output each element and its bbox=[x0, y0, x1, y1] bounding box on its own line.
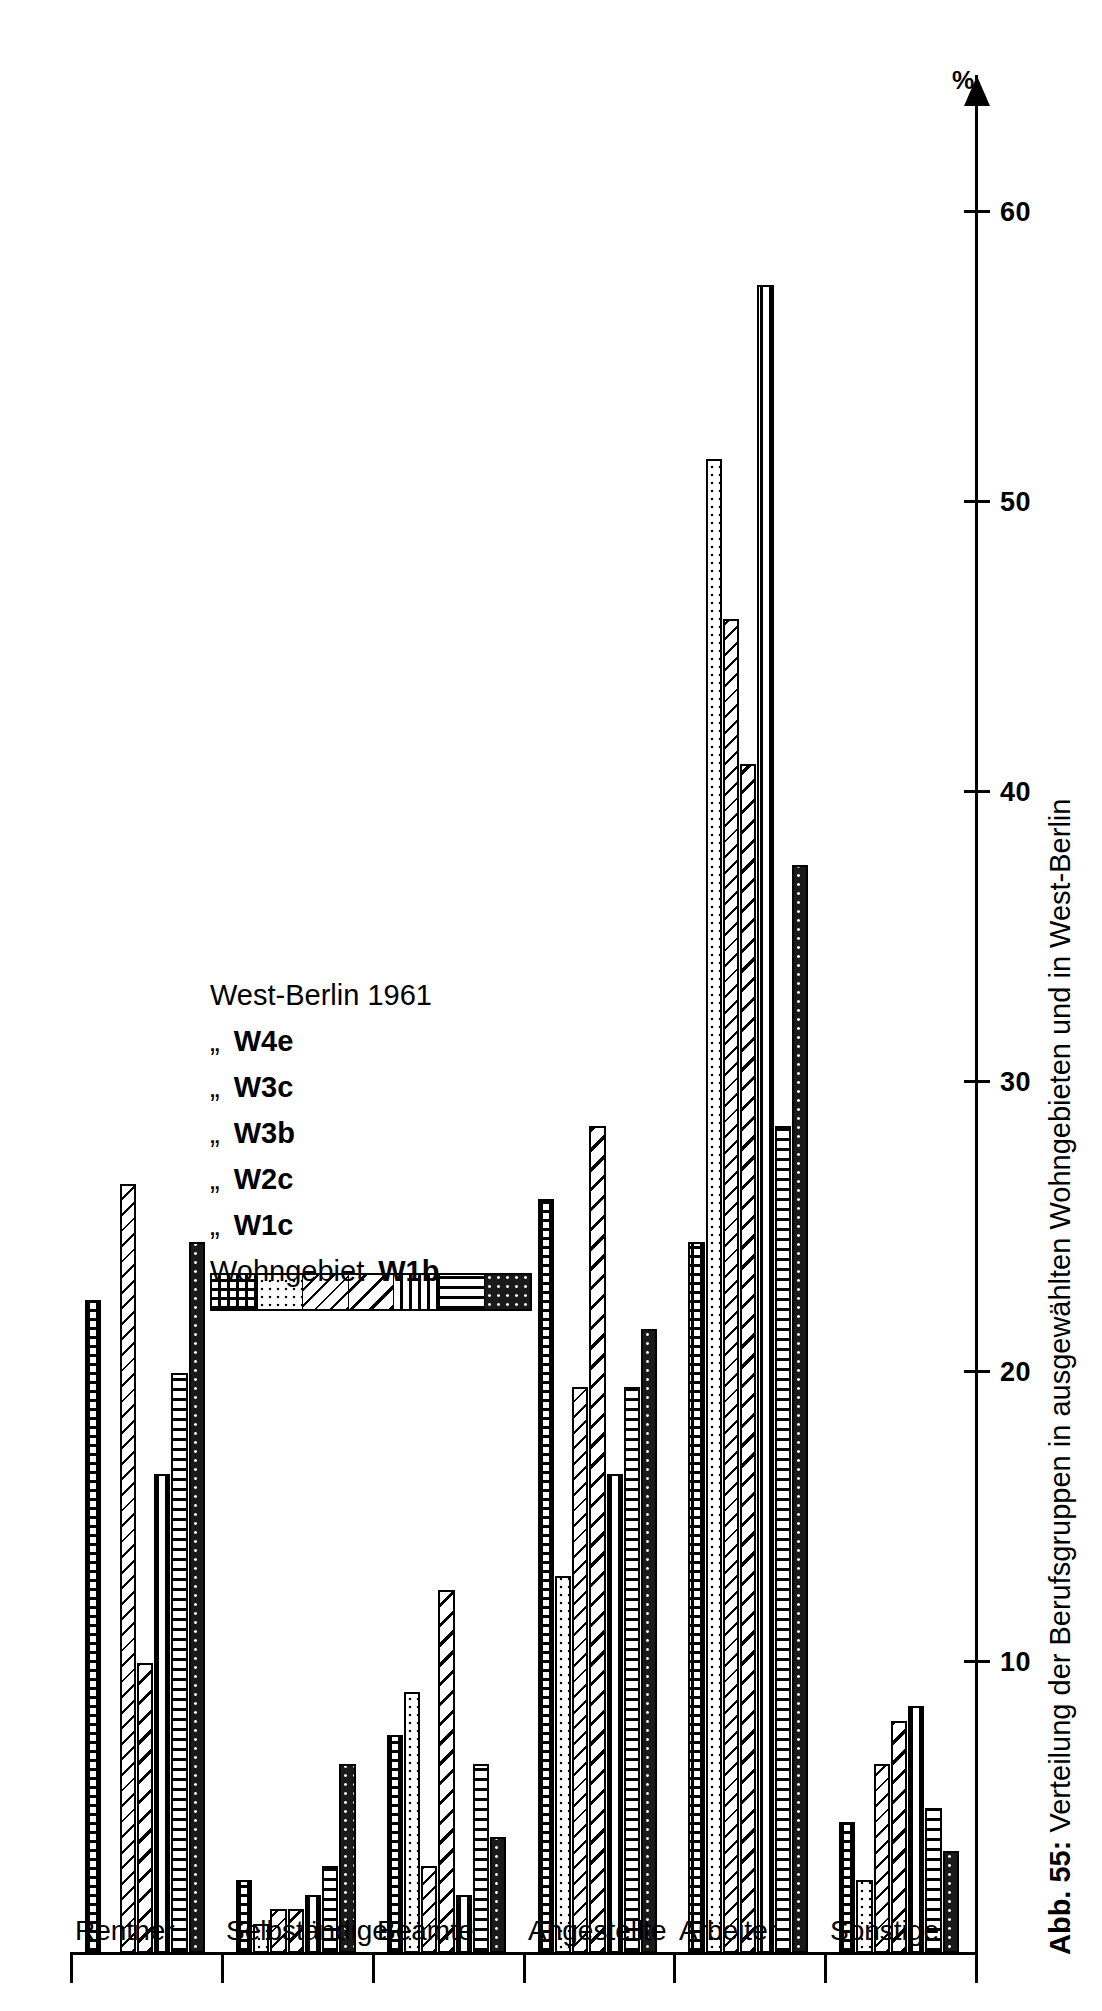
bar-angestellte-1 bbox=[538, 1199, 554, 1953]
bar-rentner-4 bbox=[137, 1663, 153, 1953]
legend-series-code: W3c bbox=[234, 1071, 294, 1104]
category-label-sonstige: Sonstige bbox=[830, 1915, 939, 1947]
value-tick-50 bbox=[964, 500, 990, 503]
legend-series-code: W1c bbox=[234, 1209, 294, 1242]
category-label-selbständige: Selbständige bbox=[226, 1915, 388, 1947]
value-tick-label: 40 bbox=[1000, 777, 1031, 808]
category-label-rentner: Rentner bbox=[75, 1915, 175, 1947]
axis-unit-label: % bbox=[952, 66, 974, 95]
category-tick bbox=[975, 1953, 978, 1983]
value-tick-40 bbox=[964, 790, 990, 793]
bar-sonstige-7 bbox=[943, 1852, 959, 1954]
legend-row: WohngebietW1b bbox=[210, 1255, 439, 1301]
legend-swatch-west-berlin bbox=[485, 1275, 530, 1309]
value-tick-label: 10 bbox=[1000, 1647, 1031, 1678]
value-tick-10 bbox=[964, 1660, 990, 1663]
bar-angestellte-7 bbox=[641, 1330, 657, 1954]
legend-series-code: W3b bbox=[234, 1117, 295, 1150]
value-tick-60 bbox=[964, 210, 990, 213]
legend-series-name: „ bbox=[210, 1117, 220, 1150]
bar-arbeiter-5 bbox=[757, 286, 773, 1954]
bar-arbeiter-2 bbox=[706, 460, 722, 1954]
bar-angestellte-2 bbox=[555, 1576, 571, 1953]
category-tick bbox=[221, 1953, 224, 1983]
plot-area: % 102030405060 RentnerSelbständigeBeamte… bbox=[0, 0, 1102, 2011]
category-label-angestellte: Angestellte bbox=[528, 1915, 667, 1947]
legend-series-code: W4e bbox=[234, 1025, 294, 1058]
caption-text: Verteilung der Berufsgruppen in ausgewäh… bbox=[1044, 799, 1076, 1841]
bar-beamte-4 bbox=[438, 1591, 454, 1954]
category-tick bbox=[523, 1953, 526, 1983]
value-tick-label: 30 bbox=[1000, 1067, 1031, 1098]
legend-series-name: „ bbox=[210, 1071, 220, 1104]
bar-beamte-6 bbox=[473, 1765, 489, 1954]
bar-rentner-6 bbox=[171, 1373, 187, 1953]
category-tick bbox=[372, 1953, 375, 1983]
value-tick-label: 50 bbox=[1000, 487, 1031, 518]
bar-rentner-1 bbox=[85, 1301, 101, 1954]
bar-angestellte-4 bbox=[589, 1127, 605, 1954]
chart-stage: % 102030405060 RentnerSelbständigeBeamte… bbox=[0, 0, 1102, 2011]
category-label-arbeiter: Arbeiter bbox=[679, 1915, 777, 1947]
bar-arbeiter-6 bbox=[775, 1127, 791, 1954]
legend-series-name: Wohngebiet bbox=[210, 1255, 364, 1288]
legend-row: „W4e bbox=[210, 1025, 293, 1071]
bar-arbeiter-1 bbox=[688, 1243, 704, 1954]
bar-rentner-7 bbox=[189, 1243, 205, 1954]
legend-series-code: W1b bbox=[378, 1255, 439, 1288]
legend-series-name: „ bbox=[210, 1209, 220, 1242]
bar-arbeiter-4 bbox=[740, 764, 756, 1953]
legend-row: West-Berlin 1961 bbox=[210, 979, 432, 1025]
legend-row: „W3b bbox=[210, 1117, 295, 1163]
category-tick bbox=[70, 1953, 73, 1983]
legend-row: „W1c bbox=[210, 1209, 293, 1255]
bar-angestellte-3 bbox=[572, 1388, 588, 1954]
bar-arbeiter-3 bbox=[723, 619, 739, 1953]
bar-beamte-2 bbox=[404, 1692, 420, 1953]
legend-series-code: W2c bbox=[234, 1163, 294, 1196]
legend-series-name: West-Berlin 1961 bbox=[210, 979, 432, 1012]
bar-beamte-7 bbox=[490, 1837, 506, 1953]
category-tick bbox=[824, 1953, 827, 1983]
value-axis-line bbox=[975, 75, 978, 1955]
legend-swatch-w4e bbox=[440, 1275, 486, 1309]
category-tick bbox=[673, 1953, 676, 1983]
bar-angestellte-5 bbox=[607, 1475, 623, 1954]
legend-series-name: „ bbox=[210, 1163, 220, 1196]
category-label-beamte: Beamte bbox=[377, 1915, 474, 1947]
value-tick-label: 60 bbox=[1000, 197, 1031, 228]
legend-row: „W3c bbox=[210, 1071, 293, 1117]
value-tick-label: 20 bbox=[1000, 1357, 1031, 1388]
bar-angestellte-6 bbox=[624, 1388, 640, 1954]
legend-label-rows: WohngebietW1b„W1c„W2c„W3b„W3c„W4eWest-Be… bbox=[210, 925, 532, 1255]
legend-row: „W2c bbox=[210, 1163, 293, 1209]
value-tick-20 bbox=[964, 1370, 990, 1373]
figure-caption: Abb. 55: Verteilung der Berufsgruppen in… bbox=[1044, 799, 1077, 1955]
legend-series-name: „ bbox=[210, 1025, 220, 1058]
value-tick-30 bbox=[964, 1080, 990, 1083]
bar-arbeiter-7 bbox=[792, 866, 808, 1954]
caption-number: Abb. 55: bbox=[1044, 1841, 1076, 1955]
bar-rentner-3 bbox=[120, 1185, 136, 1954]
bar-rentner-5 bbox=[154, 1475, 170, 1954]
